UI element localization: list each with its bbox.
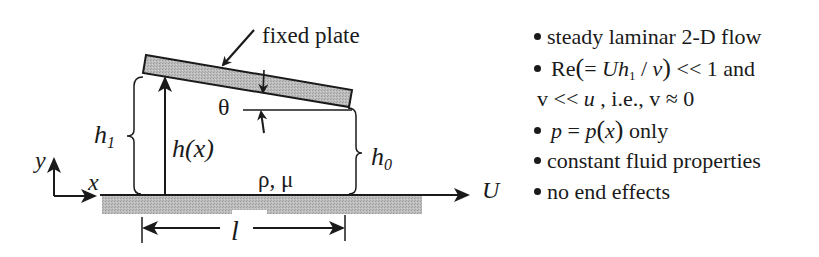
assumption-text: constant fluid properties [547, 148, 761, 173]
fixed-plate [143, 55, 352, 107]
v-symbol: v [537, 86, 548, 111]
assumption-text: steady laminar 2-D flow [547, 24, 761, 49]
re-nu: ν [653, 56, 663, 81]
fixed-plate-pointer-arrow [223, 30, 254, 65]
assumption-no-end-effects: no end effects [534, 176, 819, 207]
p-close-paren: ) [615, 115, 624, 144]
p-equals: = [562, 118, 585, 143]
h0-label: h0 [371, 142, 392, 173]
p-open-paren: ( [596, 115, 605, 144]
assumption-text: no end effects [547, 179, 670, 204]
re-open-paren: ( [575, 53, 584, 82]
length-label: l [231, 215, 239, 246]
much-less-than: << [548, 86, 584, 111]
moving-lower-plate [102, 196, 422, 215]
h1-brace [127, 77, 143, 194]
re-height: h [618, 56, 629, 81]
assumption-velocity-continuation: v << u , i.e., v ≈ 0 [534, 83, 819, 114]
p-symbol: p [551, 118, 562, 143]
theta-label: θ [218, 94, 230, 120]
length-dimension: l [142, 215, 345, 246]
approx-zero: ≈ 0 [660, 86, 694, 111]
y-axis-label: y [33, 147, 46, 173]
p-symbol-2: p [585, 118, 596, 143]
theta-arrow-down [263, 70, 264, 92]
assumption-pressure: p = p(x) only [534, 114, 819, 145]
x-axis-label: x [87, 169, 99, 195]
re-close-paren: ) [662, 53, 671, 82]
assumptions-list: steady laminar 2-D flow Re(= Uh1 / ν) <<… [534, 21, 819, 207]
assumption-steady-flow: steady laminar 2-D flow [534, 21, 819, 52]
fixed-plate-label: fixed plate [262, 23, 360, 48]
bullet-icon [534, 157, 541, 164]
v-symbol-2: v [649, 86, 660, 111]
u-symbol: u [584, 86, 595, 111]
p-tail: only [624, 118, 669, 143]
ie-text: , i.e., [595, 86, 649, 111]
theta-arrow-up [261, 112, 264, 133]
velocity-label: U [482, 177, 501, 203]
re-symbol: Re [551, 56, 575, 81]
re-tail: << 1 and [671, 56, 755, 81]
bullet-icon [534, 33, 541, 40]
p-x: x [605, 118, 615, 143]
assumption-constant-properties: constant fluid properties [534, 145, 819, 176]
re-slash: / [635, 56, 652, 81]
fluid-properties-label: ρ, μ [258, 167, 293, 192]
re-equals: = [584, 56, 602, 81]
coordinate-axes: y x [33, 147, 99, 196]
bullet-icon [534, 65, 541, 72]
re-velocity: U [602, 56, 618, 81]
h1-label: h1 [94, 120, 115, 151]
h0-brace [348, 108, 362, 194]
bullet-icon [534, 188, 541, 195]
assumption-reynolds: Re(= Uh1 / ν) << 1 and [534, 52, 819, 83]
hx-label: h(x) [172, 134, 214, 163]
bullet-icon [534, 127, 541, 134]
